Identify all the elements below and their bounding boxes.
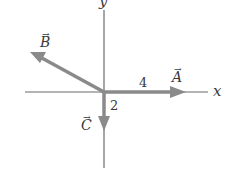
vector-arrow-icon: → (83, 113, 91, 122)
vector-arrow-icon: → (42, 30, 50, 39)
vector-c-magnitude: 2 (110, 99, 118, 112)
x-axis-label: x (213, 84, 221, 99)
vector-a-label: → A (172, 70, 182, 84)
vector-diagram (0, 0, 244, 174)
vector-b (30, 52, 104, 92)
y-axis-label: y (99, 0, 107, 9)
vector-arrow-icon: → (174, 65, 182, 74)
vector-c-label: → C (81, 118, 92, 132)
vector-a-magnitude: 4 (139, 76, 147, 89)
vector-c (98, 92, 110, 131)
vector-b-label: → B (40, 35, 50, 49)
